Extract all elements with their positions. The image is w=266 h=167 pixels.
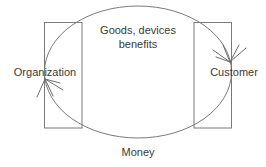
goods-flow-label-line1: Goods, devices bbox=[100, 24, 176, 36]
customer-node-label: Customer bbox=[210, 66, 258, 78]
money-flow-label: Money bbox=[121, 146, 155, 158]
organization-node-label: Organization bbox=[14, 66, 76, 78]
exchange-cycle-diagram: Goods, devices benefits Money Organizati… bbox=[0, 0, 266, 167]
goods-flow-label-line2: benefits bbox=[119, 38, 158, 50]
diagram-canvas: Goods, devices benefits Money Organizati… bbox=[0, 0, 266, 167]
